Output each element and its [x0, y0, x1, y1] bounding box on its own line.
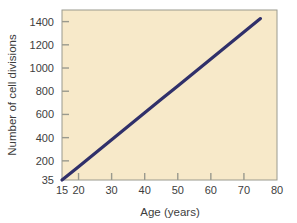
x-axis-title: Age (years) — [140, 206, 200, 218]
y-tick-label: 200 — [36, 155, 54, 167]
y-tick-label: 1000 — [30, 62, 54, 74]
chart-figure: 35200400600800100012001400 1520304050607… — [0, 0, 297, 223]
x-tick-label: 15 — [56, 184, 68, 196]
x-tick-label: 30 — [105, 184, 117, 196]
y-tick-label: 1200 — [30, 39, 54, 51]
x-tick-label: 50 — [172, 184, 184, 196]
x-tick-label: 80 — [271, 184, 283, 196]
y-axis-title: Number of cell divisions — [6, 34, 18, 156]
x-axis-tick-labels: 1520304050607080 — [56, 184, 283, 196]
y-tick-label: 35 — [42, 174, 54, 186]
y-tick-label: 400 — [36, 132, 54, 144]
y-axis-tick-labels: 35200400600800100012001400 — [30, 16, 54, 186]
x-tick-label: 40 — [139, 184, 151, 196]
y-tick-label: 1400 — [30, 16, 54, 28]
y-tick-label: 600 — [36, 108, 54, 120]
x-tick-label: 20 — [72, 184, 84, 196]
y-tick-label: 800 — [36, 85, 54, 97]
x-tick-label: 70 — [238, 184, 250, 196]
x-tick-label: 60 — [205, 184, 217, 196]
line-chart: 35200400600800100012001400 1520304050607… — [0, 0, 297, 223]
